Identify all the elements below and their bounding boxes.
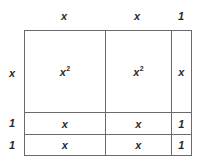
cell-base: x	[133, 65, 139, 77]
cell-exponent: 2	[66, 64, 70, 71]
grid-cell: x2	[25, 31, 106, 113]
grid-cell: x	[172, 31, 191, 113]
grid-cell: x	[25, 113, 106, 135]
cell-value: x	[25, 118, 105, 129]
cell-value: x2	[106, 66, 171, 77]
row-header-2: 1	[9, 118, 15, 129]
grid-cell: 1	[172, 135, 191, 155]
cell-base: x	[60, 65, 66, 77]
grid-cell: x	[25, 135, 106, 155]
column-header-3: 1	[178, 11, 184, 22]
row-header-3: 1	[9, 140, 15, 151]
column-header-1: x	[61, 11, 67, 22]
grid-cell: x	[106, 113, 172, 135]
cell-base: 1	[178, 117, 184, 129]
cell-value: x2	[25, 66, 105, 77]
cell-base: x	[62, 139, 68, 151]
cell-base: x	[178, 65, 184, 77]
column-header-2: x	[134, 11, 140, 22]
cell-base: 1	[178, 139, 184, 151]
cell-value: x	[106, 118, 171, 129]
cell-value: 1	[172, 140, 191, 151]
row-header-1: x	[9, 68, 15, 79]
cell-base: x	[135, 139, 141, 151]
cell-exponent: 2	[140, 64, 144, 71]
grid-cell: 1	[172, 113, 191, 135]
cell-value: 1	[172, 118, 191, 129]
cell-base: x	[135, 117, 141, 129]
cell-value: x	[106, 140, 171, 151]
grid-cell: x	[106, 135, 172, 155]
cell-value: x	[172, 66, 191, 77]
cell-value: x	[25, 140, 105, 151]
area-model-figure: x x 1 x 1 1 x2 x2 x x	[0, 0, 203, 167]
grid-cell: x2	[106, 31, 172, 113]
area-model-grid: x2 x2 x x x 1	[24, 30, 192, 156]
cell-base: x	[62, 117, 68, 129]
